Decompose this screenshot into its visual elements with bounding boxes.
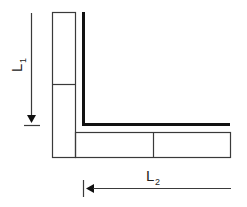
l2-dimension: L 2 xyxy=(84,167,232,197)
arrow-down-icon xyxy=(27,115,36,123)
vertical-member xyxy=(53,13,76,158)
l2-label-main: L xyxy=(146,167,154,184)
inner-corner-edge xyxy=(84,12,231,125)
l1-label-sub: 1 xyxy=(18,58,28,63)
horizontal-member xyxy=(76,133,231,158)
l1-label-main: L xyxy=(8,64,25,72)
l1-label: L 1 xyxy=(8,58,28,72)
l2-label-sub: 2 xyxy=(155,177,160,187)
l1-dimension: L 1 xyxy=(8,13,40,126)
arrow-left-icon xyxy=(86,184,94,193)
corner-diagram: L 1 L 2 xyxy=(0,0,247,207)
